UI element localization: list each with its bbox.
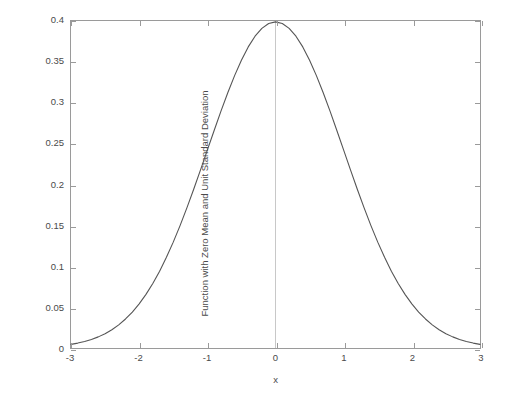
x-axis-title: x: [70, 374, 481, 385]
y-axis-tick-mark: [71, 186, 76, 187]
y-axis-tick-mark-right: [475, 144, 480, 145]
x-axis-tick-mark: [345, 343, 346, 348]
x-axis-tick-mark-top: [277, 21, 278, 26]
y-axis-tick-label: 0.2: [51, 180, 64, 190]
x-axis-tick-mark-top: [71, 21, 72, 26]
y-axis-tick-mark-right: [475, 186, 480, 187]
x-axis-tick-label: 0: [273, 353, 278, 363]
y-axis-tick-mark-right: [475, 62, 480, 63]
y-axis-tick-label: 0.4: [51, 15, 64, 25]
x-axis-tick-mark: [482, 343, 483, 348]
y-axis-tick-label: 0.25: [46, 139, 65, 149]
y-axis-tick-label: 0: [59, 344, 64, 354]
y-axis-tick-mark: [71, 350, 76, 351]
y-axis-tick-label: 0.15: [46, 221, 65, 231]
x-axis-tick-mark-top: [140, 21, 141, 26]
x-axis-tick-mark-top: [482, 21, 483, 26]
y-axis-tick-label: 0.3: [51, 98, 64, 108]
x-axis-tick-mark: [414, 343, 415, 348]
y-axis-tick-label: 0.05: [46, 303, 65, 313]
y-axis-tick-mark: [71, 227, 76, 228]
y-axis-tick-mark: [71, 103, 76, 104]
x-axis-tick-label-group: -3-2-10123: [70, 353, 481, 367]
y-axis-title-container: Function with Zero Mean and Unit Standar…: [26, 20, 40, 349]
y-axis-tick-mark: [71, 309, 76, 310]
y-axis-tick-mark: [71, 144, 76, 145]
chart-curve-svg: [71, 21, 480, 348]
x-axis-tick-mark: [277, 343, 278, 348]
x-axis-tick-label: 1: [341, 353, 346, 363]
y-axis-tick-label: 0.35: [46, 56, 65, 66]
x-axis-tick-label: 2: [410, 353, 415, 363]
y-axis-tick-mark: [71, 62, 76, 63]
y-axis-tick-label: 0.1: [51, 262, 64, 272]
y-axis-tick-mark-right: [475, 21, 480, 22]
y-axis-tick-mark-right: [475, 103, 480, 104]
x-axis-tick-mark-top: [345, 21, 346, 26]
x-axis-tick-label: -3: [66, 353, 74, 363]
x-axis-tick-mark-top: [208, 21, 209, 26]
x-axis-tick-label: -1: [203, 353, 211, 363]
x-axis-tick-mark-top: [414, 21, 415, 26]
x-axis-tick-mark: [208, 343, 209, 348]
y-axis-tick-mark-right: [475, 309, 480, 310]
x-axis-tick-mark: [71, 343, 72, 348]
figure-canvas: 00.050.10.150.20.250.30.350.4 Function w…: [0, 0, 505, 406]
x-axis-tick-label: -2: [134, 353, 142, 363]
y-axis-tick-mark-right: [475, 350, 480, 351]
plot-area: [70, 20, 481, 349]
x-axis-tick-label: 3: [478, 353, 483, 363]
y-axis-tick-mark-right: [475, 268, 480, 269]
y-axis-tick-mark: [71, 268, 76, 269]
y-axis-tick-mark-right: [475, 227, 480, 228]
x-axis-tick-mark: [140, 343, 141, 348]
